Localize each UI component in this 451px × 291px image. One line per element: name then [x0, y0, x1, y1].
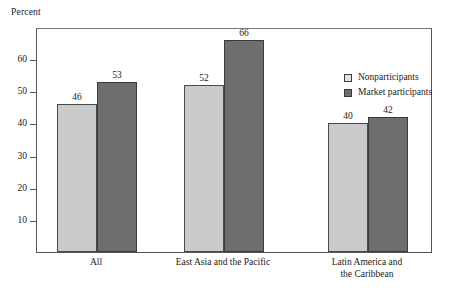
legend-item: Market participants [344, 85, 432, 100]
y-axis-tick: 30 [0, 157, 36, 158]
x-axis-group-label: Latin America and the Caribbean [297, 257, 437, 280]
legend-label: Nonparticipants [358, 70, 419, 85]
legend-item: Nonparticipants [344, 70, 432, 85]
y-axis-tick-label: 20 [18, 183, 28, 194]
y-axis-tick: 50 [0, 92, 36, 93]
y-axis-tick-label: 10 [18, 215, 28, 226]
bar: 52 [184, 85, 224, 252]
legend-label: Market participants [358, 85, 432, 100]
y-axis-tick-label: 60 [18, 54, 28, 65]
bar-chart-figure: Percent 102030405060 465352664042 Nonpar… [0, 0, 451, 291]
bar-value-label: 52 [199, 73, 209, 84]
y-axis-tick-label: 40 [18, 118, 28, 129]
bar-value-label: 40 [343, 111, 353, 122]
y-axis-tick: 40 [0, 124, 36, 125]
bar-value-label: 66 [239, 28, 249, 39]
legend-swatch-market-participants-icon [344, 89, 352, 97]
bar: 66 [224, 40, 264, 252]
bar: 46 [57, 104, 97, 252]
bar-value-label: 42 [383, 105, 393, 116]
bar-value-label: 46 [72, 92, 82, 103]
bar: 53 [97, 82, 137, 252]
y-axis-tick-label: 50 [18, 86, 28, 97]
y-axis-tick: 10 [0, 221, 36, 222]
legend-swatch-nonparticipants-icon [344, 74, 352, 82]
bar: 40 [328, 123, 368, 252]
plot-area: 465352664042 NonparticipantsMarket parti… [36, 28, 432, 253]
y-axis-tick-label: 30 [18, 151, 28, 162]
bar: 42 [368, 117, 408, 252]
y-axis-tick: 20 [0, 189, 36, 190]
chart-legend: NonparticipantsMarket participants [344, 70, 432, 100]
x-axis-group-label: All [26, 257, 166, 269]
y-axis-unit-label: Percent [11, 7, 41, 17]
bar-value-label: 53 [112, 70, 122, 81]
x-axis-group-label: East Asia and the Pacific [153, 257, 293, 269]
y-axis-tick: 60 [0, 60, 36, 61]
